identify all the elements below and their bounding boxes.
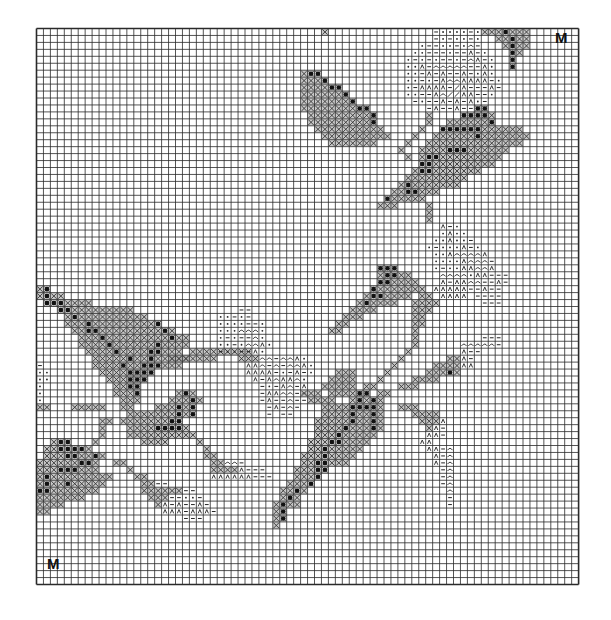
center-marker-top-right: M <box>555 30 568 45</box>
center-marker-bottom-left: M <box>47 556 60 571</box>
cross-stitch-chart <box>0 0 611 620</box>
